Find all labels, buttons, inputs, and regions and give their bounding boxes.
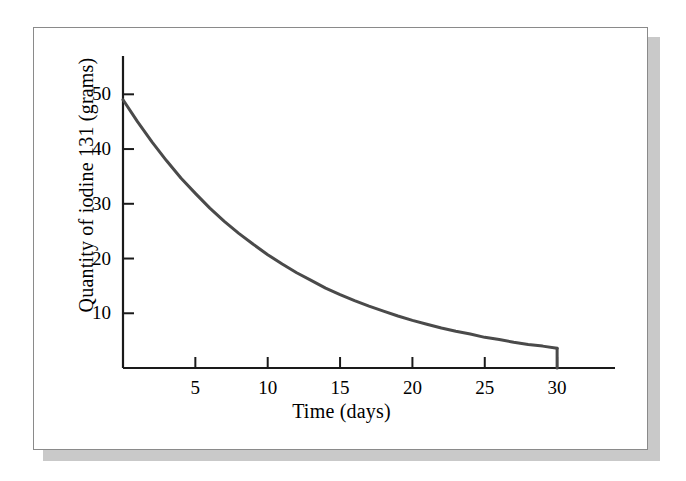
x-tick-label: 5 bbox=[175, 378, 215, 397]
y-axis-tick-marks bbox=[123, 94, 134, 313]
decay-curve bbox=[123, 100, 557, 349]
y-axis-title-container: Quantity of iodine 131 (grams) bbox=[73, 35, 99, 335]
x-axis-tick-marks bbox=[195, 357, 557, 368]
x-tick-label: 10 bbox=[248, 378, 288, 397]
x-axis-title: Time (days) bbox=[34, 400, 649, 423]
x-tick-label: 25 bbox=[465, 378, 505, 397]
plot-area: 1020304050 51015202530 Quantity of iodin… bbox=[34, 28, 649, 451]
figure-frame: 1020304050 51015202530 Quantity of iodin… bbox=[33, 27, 648, 450]
x-tick-label: 30 bbox=[537, 378, 577, 397]
x-tick-label: 15 bbox=[320, 378, 360, 397]
figure-page: 1020304050 51015202530 Quantity of iodin… bbox=[0, 0, 686, 481]
x-tick-label: 20 bbox=[392, 378, 432, 397]
y-axis-title: Quantity of iodine 131 (grams) bbox=[73, 35, 99, 335]
